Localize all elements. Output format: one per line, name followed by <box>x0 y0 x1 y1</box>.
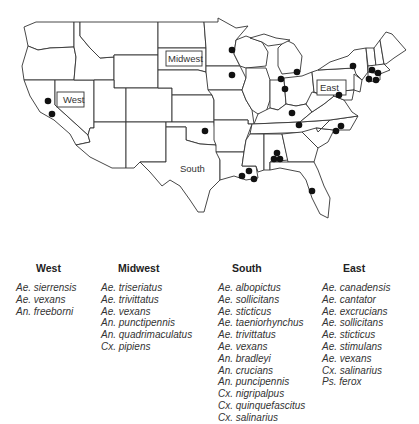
column-heading: South <box>232 262 305 274</box>
site-marker-east <box>369 67 376 74</box>
species-lists: West Ae. sierrensisAe. vexansAn. freebor… <box>0 262 419 412</box>
species-list: Ae. albopictusAe. sollicitansAe. stictic… <box>218 282 305 424</box>
species-list: Ae. canadensisAe. cantatorAe. excrucians… <box>322 282 390 388</box>
state-maine <box>380 32 406 64</box>
site-marker-south <box>338 123 345 130</box>
species-item: An. punctipennis <box>101 317 192 329</box>
site-marker-south <box>277 156 284 163</box>
region-label-midwest: Midwest <box>166 51 203 66</box>
species-item: Ae. vexans <box>16 294 77 306</box>
site-marker-west <box>45 98 52 105</box>
site-marker-south <box>333 128 340 135</box>
svg-text:West: West <box>63 94 85 105</box>
svg-text:Midwest: Midwest <box>168 53 203 64</box>
state-michigan <box>278 40 302 74</box>
site-marker-south <box>271 156 278 163</box>
site-marker-south <box>296 122 303 129</box>
site-marker-east <box>375 70 382 77</box>
us-map: Midwest West East South <box>0 0 419 250</box>
site-marker-south <box>246 168 253 175</box>
species-item: Ae. excrucians <box>322 306 390 318</box>
species-item: Ps. ferox <box>322 376 390 388</box>
species-item: Ae. canadensis <box>322 282 390 294</box>
species-item: An. quadrimaculatus <box>101 329 192 341</box>
species-column-east: East Ae. canadensisAe. cantatorAe. excru… <box>322 262 390 388</box>
site-marker-west <box>49 111 56 118</box>
column-heading: Midwest <box>118 262 192 274</box>
state-north-dakota <box>158 22 206 48</box>
region-label-west: West <box>57 92 85 107</box>
species-item: Ae. vexans <box>218 341 305 353</box>
species-item: Cx. pipiens <box>101 341 192 353</box>
site-marker-south <box>239 173 246 180</box>
species-item: Ae. vexans <box>322 353 390 365</box>
state-boundaries <box>22 18 406 218</box>
state-washington <box>24 22 74 50</box>
column-heading: West <box>36 262 77 274</box>
species-item: Ae. albopictus <box>218 282 305 294</box>
species-column-west: West Ae. sierrensisAe. vexansAn. freebor… <box>16 262 77 317</box>
site-marker-south <box>202 128 209 135</box>
site-marker-east <box>350 63 357 70</box>
site-marker-south <box>274 150 281 157</box>
site-marker-south <box>289 110 296 117</box>
species-item: An. freeborni <box>16 306 77 318</box>
species-item: Cx. salinarius <box>322 365 390 377</box>
site-marker-midwest <box>229 47 236 54</box>
species-item: Ae. trivittatus <box>218 329 305 341</box>
species-item: An. bradleyi <box>218 353 305 365</box>
species-item: Ae. taeniorhynchus <box>218 317 305 329</box>
species-item: Ae. sollicitans <box>322 317 390 329</box>
site-marker-south <box>251 176 258 183</box>
species-item: Cx. salinarius <box>218 412 305 424</box>
region-label-south: South <box>180 163 205 174</box>
species-item: Ae. sierrensis <box>16 282 77 294</box>
species-item: Ae. trivittatus <box>101 294 192 306</box>
species-item: An. crucians <box>218 365 305 377</box>
species-item: Ae. sticticus <box>322 329 390 341</box>
species-item: Ae. triseriatus <box>101 282 192 294</box>
state-florida <box>270 162 330 218</box>
species-item: Cx. quinquefascitus <box>218 400 305 412</box>
site-marker-south <box>309 188 316 195</box>
species-item: An. puncipennis <box>218 376 305 388</box>
species-item: Ae. sollicitans <box>218 294 305 306</box>
state-iowa <box>206 66 246 90</box>
svg-text:South: South <box>180 163 205 174</box>
site-marker-midwest <box>278 76 285 83</box>
state-oregon <box>22 46 76 80</box>
species-item: Ae. sticticus <box>218 306 305 318</box>
species-item: Ae. vexans <box>101 306 192 318</box>
species-item: Ae. cantator <box>322 294 390 306</box>
site-marker-midwest <box>229 72 236 79</box>
species-list: Ae. triseriatusAe. trivittatusAe. vexans… <box>101 282 192 353</box>
state-kansas <box>172 95 214 122</box>
state-wyoming <box>114 55 158 88</box>
species-column-midwest: Midwest Ae. triseriatusAe. trivittatusAe… <box>101 262 192 353</box>
species-list: Ae. sierrensisAe. vexansAn. freeborni <box>16 282 77 317</box>
svg-text:East: East <box>320 82 339 93</box>
site-marker-east <box>373 77 380 84</box>
state-new-mexico <box>126 122 166 168</box>
site-marker-east <box>366 76 373 83</box>
species-item: Cx. nigripalpus <box>218 388 305 400</box>
state-colorado <box>126 88 172 122</box>
species-item: Ae. stimulans <box>322 341 390 353</box>
site-marker-midwest <box>282 86 289 93</box>
region-label-east: East <box>317 80 346 95</box>
species-column-south: South Ae. albopictusAe. sollicitansAe. s… <box>218 262 305 424</box>
site-marker-east <box>336 92 343 99</box>
column-heading: East <box>343 262 390 274</box>
site-marker-midwest <box>294 69 301 76</box>
